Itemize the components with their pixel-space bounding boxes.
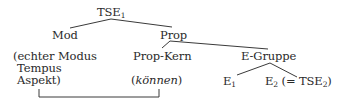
- node-tse1: TSE1: [97, 6, 125, 18]
- node-tse1-subscript: 1: [121, 11, 126, 20]
- syntax-tree-diagram: TSE1 Mod Prop (echter Modus Tempus Aspek…: [0, 0, 342, 104]
- node-prop-kern: Prop-Kern: [133, 50, 192, 62]
- node-e2-close: ): [327, 74, 331, 88]
- node-e2-equals: (= TSE: [278, 74, 323, 88]
- mod-child-line-3: Aspekt): [17, 74, 61, 86]
- example-word: können: [135, 73, 177, 87]
- node-tse1-label: TSE: [97, 5, 121, 19]
- node-e2: E2 (= TSE2): [265, 75, 332, 87]
- node-e-gruppe: E-Gruppe: [241, 50, 296, 62]
- edge-prop-egruppe: [170, 41, 268, 49]
- node-e1-subscript: 1: [231, 80, 236, 89]
- edge-tse1-prop: [111, 19, 172, 27]
- node-prop: Prop: [160, 29, 187, 41]
- node-e1: E1: [223, 75, 236, 87]
- edge-prop-propkern: [162, 41, 170, 48]
- example-close-paren: ): [178, 73, 182, 87]
- node-mod: Mod: [52, 29, 78, 41]
- node-prop-kern-example: (können): [131, 74, 182, 86]
- link-bracket: [39, 89, 159, 97]
- edge-tse1-mod: [70, 19, 111, 28]
